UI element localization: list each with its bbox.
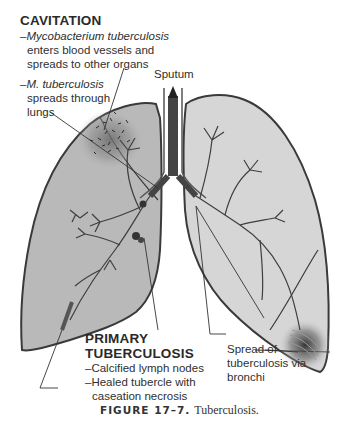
organism-name: Mycobacterium tuberculosis — [26, 30, 169, 42]
cavitation-line-5: spreads through — [27, 92, 110, 106]
sputum-label: Sputum — [154, 68, 194, 82]
caption-text: Tuberculosis. — [194, 403, 259, 417]
primary-item-2-cont: caseation necrosis — [92, 390, 187, 404]
primary-item-2: –Healed tubercle with — [85, 376, 196, 390]
cavitation-line-1: –Mycobacterium tuberculosis — [20, 30, 169, 44]
figure-caption: FIGURE 17–7.Tuberculosis. — [100, 403, 259, 418]
spread-line-2: tuberculosis via — [227, 357, 306, 371]
primary-item-1: –Calcified lymph nodes — [85, 362, 204, 376]
organism-short-name: M. tuberculosis — [26, 78, 103, 90]
cavitation-heading: CAVITATION — [20, 13, 102, 28]
sputum-arrow-icon — [168, 86, 178, 98]
spread-line-3: bronchi — [227, 371, 265, 385]
primary-heading-1: PRIMARY — [85, 331, 148, 346]
right-lung — [184, 95, 331, 372]
primary-heading-2: TUBERCULOSIS — [85, 346, 194, 361]
cavitation-line-4: –M. tuberculosis — [20, 78, 104, 92]
cavitation-line-6: lungs — [27, 106, 55, 120]
cavitation-line-2: enters blood vessels and — [27, 44, 154, 58]
spread-line-1: Spread of — [227, 343, 277, 357]
figure-label: FIGURE 17–7. — [100, 404, 190, 416]
cavitation-line-3: spreads to other organs — [27, 58, 148, 72]
